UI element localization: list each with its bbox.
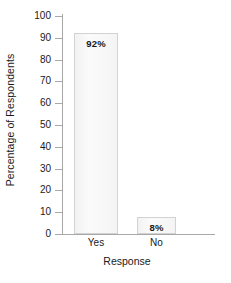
y-axis-tick-label: 70 <box>11 76 51 86</box>
y-axis-tick <box>55 103 62 104</box>
y-axis-tick-label: 30 <box>11 164 51 174</box>
y-axis-tick-label: 60 <box>11 98 51 108</box>
bar-value-label: 8% <box>138 222 175 233</box>
y-axis-tick-label: 100 <box>11 11 51 21</box>
y-axis-tick-label: 40 <box>11 142 51 152</box>
y-axis-tick-label: 80 <box>11 55 51 65</box>
x-axis-title: Response <box>62 255 192 267</box>
x-axis-tick-label: Yes <box>74 237 118 248</box>
y-axis-tick <box>55 16 62 17</box>
y-axis-tick-label: 20 <box>11 185 51 195</box>
y-axis-tick <box>55 81 62 82</box>
y-axis-tick <box>55 212 62 213</box>
bar: 92% <box>74 33 118 234</box>
y-axis-tick-label: 50 <box>11 120 51 130</box>
y-axis-tick-label: 0 <box>11 229 51 239</box>
bar: 8% <box>137 217 176 234</box>
y-axis-tick <box>55 234 62 235</box>
y-axis-line <box>62 14 63 235</box>
y-axis-tick <box>55 125 62 126</box>
y-axis-tick-label: 90 <box>11 33 51 43</box>
bar-value-label: 92% <box>75 38 117 49</box>
bar-chart: Percentage of Respondents 01020304050607… <box>0 0 231 283</box>
y-axis-tick <box>55 147 62 148</box>
x-axis-line <box>62 234 215 235</box>
y-axis-tick <box>55 38 62 39</box>
y-axis-tick <box>55 169 62 170</box>
x-axis-tick-label: No <box>137 237 176 248</box>
y-axis-tick <box>55 60 62 61</box>
y-axis-tick <box>55 190 62 191</box>
y-axis-tick-label: 10 <box>11 207 51 217</box>
